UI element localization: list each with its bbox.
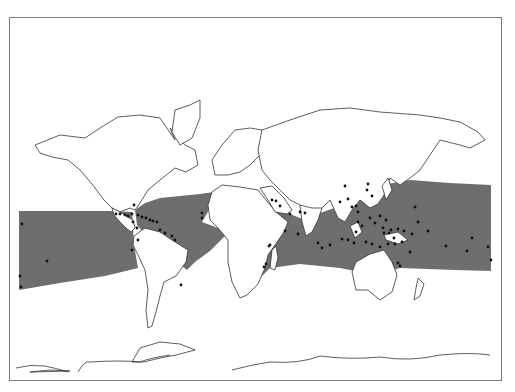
site-marker-dot[interactable]: [304, 212, 307, 215]
site-marker-dot[interactable]: [141, 216, 144, 219]
site-marker-dot[interactable]: [156, 221, 159, 224]
site-marker-dot[interactable]: [379, 215, 382, 218]
site-marker-dot[interactable]: [180, 284, 183, 287]
site-marker-dot[interactable]: [427, 230, 430, 233]
site-marker-dot[interactable]: [297, 233, 300, 236]
site-marker-dot[interactable]: [374, 222, 377, 225]
tropical-zone-pacific-east: [19, 211, 138, 290]
site-marker-dot[interactable]: [367, 183, 370, 186]
site-marker-dot[interactable]: [119, 213, 122, 216]
site-marker-dot[interactable]: [201, 217, 204, 220]
site-marker-dot[interactable]: [385, 219, 388, 222]
site-marker-dot[interactable]: [131, 249, 134, 252]
site-marker-dot[interactable]: [299, 211, 302, 214]
site-marker-dot[interactable]: [136, 227, 139, 230]
antarctic-peninsula: [132, 342, 195, 362]
site-marker-dot[interactable]: [275, 200, 278, 203]
site-marker-dot[interactable]: [171, 235, 174, 238]
site-marker-dot[interactable]: [466, 250, 469, 253]
site-marker-dot[interactable]: [339, 201, 342, 204]
site-marker-dot[interactable]: [132, 221, 135, 224]
site-marker-dot[interactable]: [19, 275, 22, 278]
site-marker-dot[interactable]: [321, 247, 324, 250]
site-marker-dot[interactable]: [137, 214, 140, 217]
site-marker-dot[interactable]: [471, 237, 474, 240]
site-marker-dot[interactable]: [397, 228, 400, 231]
site-marker-dot[interactable]: [353, 242, 356, 245]
site-marker-dot[interactable]: [284, 230, 287, 233]
site-marker-dot[interactable]: [279, 205, 282, 208]
world-map[interactable]: [0, 0, 515, 392]
site-marker-dot[interactable]: [369, 217, 372, 220]
site-marker-dot[interactable]: [159, 229, 162, 232]
coastline-layer: [16, 354, 490, 373]
site-marker-dot[interactable]: [403, 230, 406, 233]
site-marker-dot[interactable]: [411, 233, 414, 236]
site-marker-dot[interactable]: [388, 232, 391, 235]
antarctica-coast-right: [232, 354, 490, 371]
greenland: [172, 100, 200, 145]
site-marker-dot[interactable]: [149, 219, 152, 222]
site-marker-dot[interactable]: [127, 215, 130, 218]
site-marker-dot[interactable]: [137, 239, 140, 242]
site-marker-dot[interactable]: [390, 229, 393, 232]
site-marker-dot[interactable]: [21, 223, 24, 226]
site-marker-dot[interactable]: [355, 205, 358, 208]
site-marker-dot[interactable]: [393, 237, 396, 240]
site-marker-dot[interactable]: [394, 243, 397, 246]
site-marker-dot[interactable]: [263, 266, 266, 269]
site-marker-dot[interactable]: [379, 246, 382, 249]
site-marker-dot[interactable]: [383, 232, 386, 235]
site-marker-dot[interactable]: [344, 185, 347, 188]
site-marker-dot[interactable]: [357, 211, 360, 214]
site-marker-dot[interactable]: [164, 232, 167, 235]
site-marker-dot[interactable]: [46, 260, 49, 263]
site-marker-dot[interactable]: [397, 262, 400, 265]
site-marker-dot[interactable]: [351, 206, 354, 209]
site-marker-dot[interactable]: [414, 206, 417, 209]
antarctica-coast-mid: [78, 355, 170, 372]
site-marker-dot[interactable]: [417, 221, 420, 224]
site-marker-dot[interactable]: [271, 199, 274, 202]
site-marker-dot[interactable]: [371, 195, 374, 198]
site-marker-dot[interactable]: [289, 213, 292, 216]
site-marker-dot[interactable]: [201, 212, 204, 215]
site-marker-dot[interactable]: [357, 221, 360, 224]
site-marker-dot[interactable]: [133, 204, 136, 207]
site-marker-dot[interactable]: [366, 189, 369, 192]
site-marker-dot[interactable]: [174, 239, 177, 242]
site-marker-dot[interactable]: [115, 213, 118, 216]
site-marker-dot[interactable]: [487, 246, 490, 249]
site-marker-dot[interactable]: [145, 217, 148, 220]
site-marker-dot[interactable]: [382, 227, 385, 230]
site-marker-dot[interactable]: [445, 245, 448, 248]
site-marker-dot[interactable]: [490, 259, 493, 262]
site-marker-dot[interactable]: [401, 241, 404, 244]
site-marker-dot[interactable]: [399, 265, 402, 268]
site-marker-dot[interactable]: [265, 263, 268, 266]
new-zealand: [414, 278, 424, 300]
site-marker-dot[interactable]: [329, 244, 332, 247]
site-marker-dot[interactable]: [131, 213, 134, 216]
site-marker-dot[interactable]: [268, 245, 271, 248]
site-marker-dot[interactable]: [152, 220, 155, 223]
site-marker-dot[interactable]: [371, 243, 374, 246]
site-marker-dot[interactable]: [347, 198, 350, 201]
site-marker-dot[interactable]: [317, 242, 320, 245]
site-marker-dot[interactable]: [124, 214, 127, 217]
site-marker-dot[interactable]: [20, 286, 23, 289]
site-marker-dot[interactable]: [341, 238, 344, 241]
site-marker-dot[interactable]: [347, 239, 350, 242]
site-marker-dot[interactable]: [387, 243, 390, 246]
site-marker-dot[interactable]: [365, 241, 368, 244]
site-marker-dot[interactable]: [361, 225, 364, 228]
site-marker-dot[interactable]: [355, 231, 358, 234]
site-marker-dot[interactable]: [409, 251, 412, 254]
